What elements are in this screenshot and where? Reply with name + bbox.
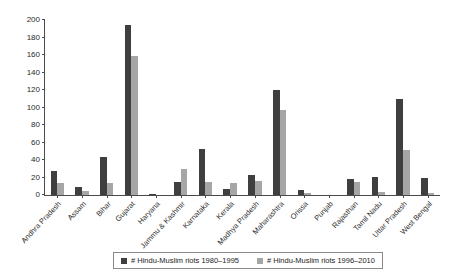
bar <box>396 99 403 195</box>
x-axis-tick-mark <box>428 195 429 198</box>
chart-legend: # Hindu-Muslim riots 1980–1995# Hindu-Mu… <box>113 252 383 269</box>
bar <box>51 171 58 196</box>
bar-group <box>273 20 286 195</box>
bar <box>255 181 262 195</box>
x-axis-tick-label: Andhra Pradesh <box>20 200 63 245</box>
plot-area: 020406080100120140160180200 Andhra Prade… <box>44 20 440 196</box>
legend-item: # Hindu-Muslim riots 1980–1995 <box>121 256 239 265</box>
light-swatch <box>257 258 263 264</box>
x-axis-tick-mark <box>354 195 355 198</box>
bar <box>403 150 410 196</box>
bar <box>230 183 237 195</box>
x-axis-tick-label: Kerala <box>215 200 236 221</box>
y-axis-tick-label: 140 <box>0 69 45 77</box>
bar-group <box>75 20 88 195</box>
y-axis-tick-label: 40 <box>0 156 45 164</box>
y-axis-tick-label: 160 <box>0 51 45 59</box>
x-axis-tick-mark <box>57 195 58 198</box>
y-axis-tick-label: 180 <box>0 34 45 42</box>
x-axis-tick-mark <box>403 195 404 198</box>
bar <box>199 149 206 195</box>
bar <box>298 190 305 195</box>
bar-group <box>149 20 162 195</box>
bar <box>75 187 82 195</box>
dark-swatch <box>121 258 127 264</box>
bar <box>107 183 114 195</box>
x-axis-tick-mark <box>255 195 256 198</box>
y-axis-tick-label: 100 <box>0 104 45 112</box>
bar <box>57 183 64 195</box>
x-axis-tick-mark <box>82 195 83 198</box>
x-axis-tick-mark <box>280 195 281 198</box>
bar <box>248 175 255 195</box>
bar-chart: 020406080100120140160180200 Andhra Prade… <box>0 0 450 278</box>
bar <box>181 169 188 195</box>
bar-group <box>248 20 261 195</box>
bar <box>223 189 230 195</box>
y-axis-tick-label: 80 <box>0 121 45 129</box>
bar <box>421 178 428 196</box>
y-axis-tick-label: 20 <box>0 174 45 182</box>
bar <box>149 194 156 195</box>
bar-group <box>51 20 64 195</box>
bar-group <box>322 20 335 195</box>
bar <box>174 182 181 195</box>
x-axis-tick-mark <box>205 195 206 198</box>
bar <box>100 157 107 195</box>
bar-group <box>298 20 311 195</box>
y-axis-tick-label: 120 <box>0 86 45 94</box>
bar-group <box>421 20 434 195</box>
legend-item: # Hindu-Muslim riots 1996–2010 <box>257 256 375 265</box>
x-axis-tick-label: Assam <box>66 200 87 222</box>
bar <box>372 177 379 195</box>
bars-layer <box>45 20 440 195</box>
bar-group <box>372 20 385 195</box>
bar-group <box>396 20 409 195</box>
legend-label: # Hindu-Muslim riots 1980–1995 <box>131 256 239 265</box>
x-axis-tick-mark <box>181 195 182 198</box>
bar <box>347 179 354 195</box>
y-axis-tick-label: 200 <box>0 16 45 24</box>
bar <box>354 182 361 195</box>
x-axis-tick-label: Punjab <box>313 200 335 223</box>
y-axis-tick-label: 0 <box>0 191 45 199</box>
bar <box>131 56 138 195</box>
legend-label: # Hindu-Muslim riots 1996–2010 <box>267 256 375 265</box>
x-axis-tick-mark <box>378 195 379 198</box>
bar <box>273 90 280 195</box>
x-axis-tick-mark <box>230 195 231 198</box>
x-axis-tick-label: Orissa <box>289 200 310 221</box>
bar-group <box>347 20 360 195</box>
bar-group <box>125 20 138 195</box>
bar <box>205 182 212 195</box>
bar-group <box>199 20 212 195</box>
x-axis-tick-mark <box>304 195 305 198</box>
x-axis-tick-mark <box>107 195 108 198</box>
x-axis-tick-mark <box>329 195 330 198</box>
bar <box>125 25 132 195</box>
y-axis-tick-label: 60 <box>0 139 45 147</box>
x-axis-tick-mark <box>131 195 132 198</box>
bar-group <box>223 20 236 195</box>
bar <box>280 110 287 195</box>
x-axis-tick-label: Bihar <box>95 200 113 218</box>
x-axis-tick-label: Gujarat <box>115 200 138 223</box>
bar-group <box>174 20 187 195</box>
x-axis-tick-mark <box>156 195 157 198</box>
bar-group <box>100 20 113 195</box>
